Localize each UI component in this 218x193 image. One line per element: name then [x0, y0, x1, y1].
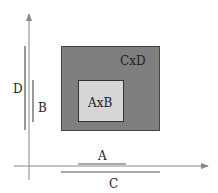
outer-rectangle-label: CxD: [120, 54, 146, 68]
inner-rectangle-label: AxB: [87, 96, 112, 110]
label-a: A: [97, 149, 107, 163]
rectangle-product-diagram: CxD AxB D B A C: [0, 0, 218, 193]
label-d: D: [13, 82, 23, 96]
label-b: B: [38, 101, 47, 115]
label-c: C: [109, 177, 118, 191]
